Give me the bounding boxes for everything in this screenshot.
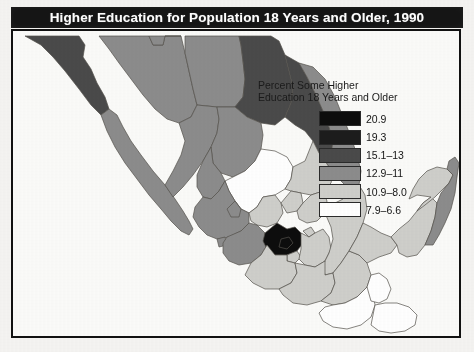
legend-swatch [319, 202, 361, 217]
map-legend: Percent Some Higher Education 18 Years a… [258, 79, 418, 219]
legend-label: 12.9–11 [366, 167, 403, 179]
legend-label: 20.9 [366, 113, 386, 125]
legend-title: Percent Some Higher Education 18 Years a… [258, 79, 418, 104]
legend-swatch [319, 130, 361, 145]
legend-item: 20.9 [319, 110, 418, 128]
legend-item: 7.9–6.6 [319, 201, 418, 219]
legend-item: 15.1–13 [319, 146, 418, 164]
legend-label: 15.1–13 [366, 149, 404, 161]
legend-title-line-1: Percent Some Higher [258, 79, 418, 91]
legend-swatch [319, 148, 361, 163]
legend-label: 7.9–6.6 [366, 204, 401, 216]
legend-swatch [319, 184, 361, 199]
region-sonora [99, 36, 197, 123]
region-baja-california-norte [25, 36, 109, 115]
legend-items: 20.9 19.3 15.1–13 12.9–11 10.9–8.0 [319, 110, 418, 219]
region-neighbor-extra-outline [371, 303, 417, 333]
legend-label: 19.3 [366, 131, 386, 143]
page-title: Higher Education for Population 18 Years… [50, 10, 424, 25]
legend-swatch [319, 166, 361, 181]
legend-swatch [319, 111, 361, 126]
legend-item: 10.9–8.0 [319, 183, 418, 201]
document-page: Higher Education for Population 18 Years… [0, 0, 474, 352]
legend-label: 10.9–8.0 [366, 186, 407, 198]
legend-title-line-2: Education 18 Years and Older [258, 91, 418, 103]
map-frame: .st{stroke:#55514c;stroke-width:0.7;stro… [11, 29, 461, 338]
legend-item: 19.3 [319, 128, 418, 146]
legend-item: 12.9–11 [319, 164, 418, 182]
map-title-bar: Higher Education for Population 18 Years… [11, 7, 463, 28]
region-belize-outline [367, 273, 391, 303]
